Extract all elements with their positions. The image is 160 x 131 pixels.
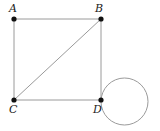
vertex-label-d: D	[93, 104, 102, 115]
segment-cb	[14, 19, 101, 100]
vertex-dot-c	[11, 97, 16, 102]
vertex-label-a: A	[9, 3, 17, 14]
vertex-label-c: C	[9, 104, 17, 115]
vertex-label-b: B	[95, 3, 103, 14]
tangent-circle	[101, 78, 148, 125]
vertex-dot-b	[98, 16, 103, 21]
tangent-circle-group	[101, 78, 148, 125]
geometry-canvas	[0, 0, 160, 131]
vertex-dot-a	[11, 16, 16, 21]
vertex-dot-d	[98, 97, 103, 102]
diagonal	[14, 19, 101, 100]
geometry-figure: A B C D	[0, 0, 160, 131]
